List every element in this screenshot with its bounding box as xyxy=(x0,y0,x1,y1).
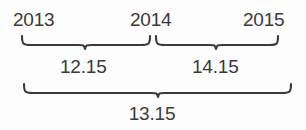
bracket-diagram: 2013 2014 2015 12.15 14.15 13.15 xyxy=(0,0,306,130)
brace-lower-total xyxy=(24,84,291,97)
value-label-total-interval: 13.15 xyxy=(0,104,305,123)
brace-upper-right xyxy=(156,36,278,49)
value-label-left-interval: 12.15 xyxy=(60,57,107,76)
brace-upper-left xyxy=(22,36,150,49)
value-label-right-interval: 14.15 xyxy=(192,57,239,76)
